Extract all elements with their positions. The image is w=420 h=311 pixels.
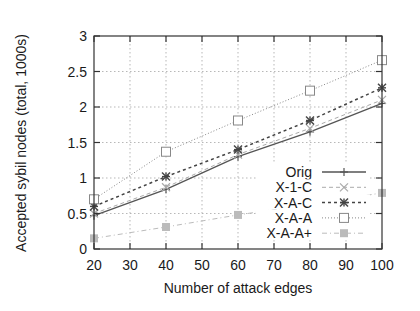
x-tick-label: 50 xyxy=(194,257,210,273)
y-tick-label: 2.5 xyxy=(68,64,88,80)
legend: OrigX-1-CX-A-CX-A-AX-A-A+ xyxy=(256,164,370,241)
y-tick-label: 0.5 xyxy=(68,206,88,222)
data-point xyxy=(162,147,171,156)
x-axis-label: Number of attack edges xyxy=(164,280,313,296)
x-tick-label: 40 xyxy=(158,257,174,273)
legend-marker xyxy=(340,229,348,237)
legend-label: X-A-A+ xyxy=(266,225,312,241)
legend-item: X-A-A+ xyxy=(256,225,370,241)
y-axis-label: Accepted sybil nodes (total, 1000s) xyxy=(13,34,29,252)
line-chart: 203040506070809010000.511.522.53 OrigX-1… xyxy=(0,0,420,311)
x-tick-label: 20 xyxy=(86,257,102,273)
data-point xyxy=(162,173,170,181)
legend-item: X-A-C xyxy=(256,195,370,211)
y-tick-label: 0 xyxy=(79,241,87,257)
y-tick-label: 2 xyxy=(79,99,87,115)
legend-label: X-A-A xyxy=(275,210,313,226)
x-tick-label: 80 xyxy=(302,257,318,273)
y-tick-label: 1.5 xyxy=(68,135,88,151)
y-tick-label: 1 xyxy=(79,170,87,186)
x-tick-label: 100 xyxy=(370,257,394,273)
legend-marker xyxy=(340,213,349,222)
y-tick-label: 3 xyxy=(79,28,87,44)
legend-item: X-1-C xyxy=(256,179,370,195)
x-tick-label: 70 xyxy=(266,257,282,273)
x-tick-label: 30 xyxy=(122,257,138,273)
x-tick-label: 60 xyxy=(230,257,246,273)
legend-item: Orig xyxy=(256,164,370,180)
data-point xyxy=(234,116,243,125)
data-point xyxy=(306,116,314,124)
legend-label: X-A-C xyxy=(274,195,312,211)
legend-label: X-1-C xyxy=(275,179,312,195)
data-point xyxy=(234,146,242,154)
data-point xyxy=(306,86,315,95)
data-point xyxy=(162,223,170,231)
legend-label: Orig xyxy=(286,164,312,180)
legend-item: X-A-A xyxy=(256,210,370,226)
x-tick-label: 90 xyxy=(338,257,354,273)
data-point xyxy=(234,211,242,219)
legend-marker xyxy=(340,199,348,207)
